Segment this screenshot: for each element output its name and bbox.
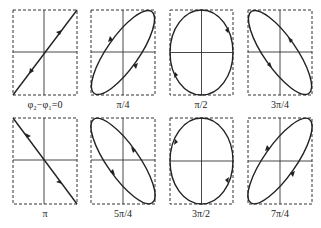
panel-phase-pi: [13, 118, 77, 204]
panel-phase-3pi-2: [170, 118, 233, 204]
label-phase-pi-4: π/4: [83, 99, 163, 110]
label-phase-pi: π: [5, 208, 85, 219]
panel-phase-0: [13, 10, 77, 95]
label-phase-3pi-4: 3π/4: [240, 99, 320, 110]
panel-phase-pi-4: [81, 2, 165, 102]
panel-phase-3pi-4: [238, 2, 321, 102]
label-phase-5pi-4: 5π/4: [83, 208, 163, 219]
arrow-icon: [56, 30, 62, 35]
label-phase-pi-2: π/2: [161, 99, 241, 110]
label-phase-3pi-2: 3π/2: [161, 208, 241, 219]
panel-phase-5pi-4: [81, 110, 166, 212]
label-phase-0: φ₂−φ₁=0: [5, 99, 85, 110]
lissajous-diagram: [0, 0, 321, 228]
panel-phase-pi-2: [170, 10, 233, 95]
panel-phase-7pi-4: [238, 110, 321, 212]
label-phase-7pi-4: 7π/4: [240, 208, 320, 219]
